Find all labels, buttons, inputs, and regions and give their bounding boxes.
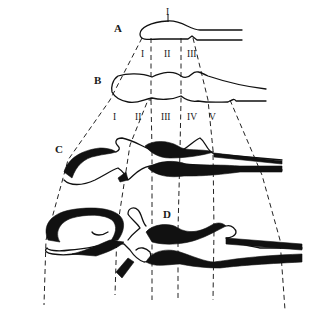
dashed-line-2 xyxy=(115,38,151,295)
stage-b-region-v: V xyxy=(209,112,216,122)
stage-b-region-i: I xyxy=(113,112,116,122)
stage-a: A I I II III xyxy=(114,7,242,59)
stage-a-top-marker: I xyxy=(166,7,169,17)
brain-development-diagram: A I I II III B I II III IV V C D xyxy=(0,0,323,318)
stage-a-region-i: I xyxy=(141,49,144,59)
stage-a-region-ii: II xyxy=(164,49,170,59)
stage-d-big-arch xyxy=(46,208,124,242)
stage-c-hook xyxy=(118,172,128,182)
stage-a-region-iii: III xyxy=(187,49,197,59)
stage-b-label: B xyxy=(94,74,102,86)
stage-c: C xyxy=(55,138,282,185)
stage-c-label: C xyxy=(55,143,63,155)
stage-a-tube xyxy=(140,21,242,40)
stage-d-label: D xyxy=(163,208,171,220)
dashed-line-3 xyxy=(151,100,152,300)
stage-b: B I II III IV V xyxy=(94,72,266,122)
stage-b-region-iv: IV xyxy=(187,112,197,122)
dashed-line-6 xyxy=(230,100,285,310)
stage-d: D xyxy=(46,208,302,278)
stage-b-tube xyxy=(112,72,266,103)
stage-b-region-ii: II xyxy=(135,112,141,122)
stage-a-label: A xyxy=(114,22,122,34)
diagram-canvas: A I I II III B I II III IV V C D xyxy=(0,0,323,318)
stage-d-lower-stub xyxy=(116,258,134,278)
stage-b-region-iii: III xyxy=(161,112,171,122)
stage-d-ventral xyxy=(146,250,302,268)
stage-c-mid-dorsal xyxy=(145,142,214,159)
